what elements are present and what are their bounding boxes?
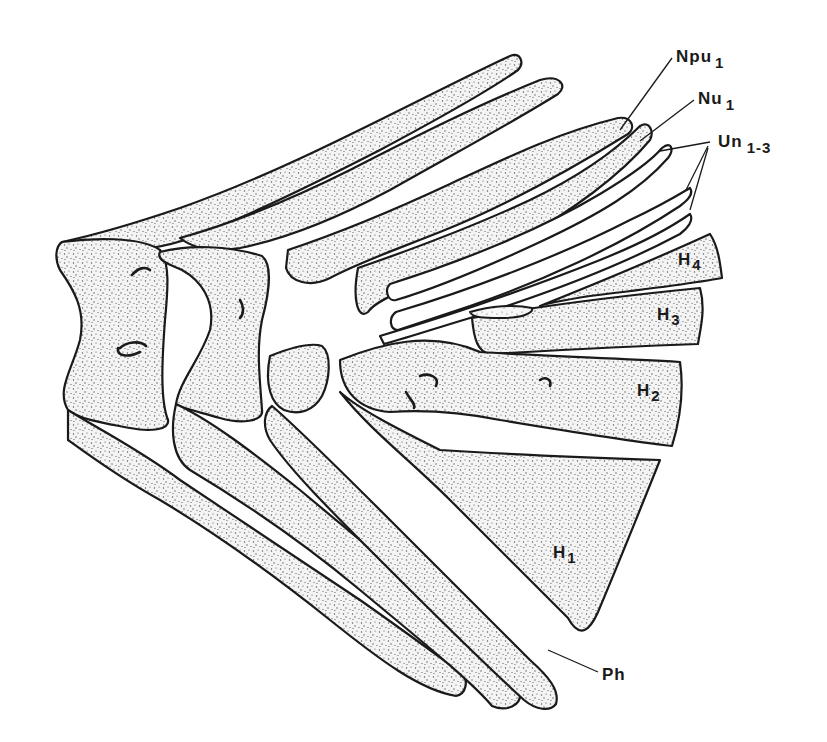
centrum-2 [159, 247, 269, 421]
label-un1-3: Un1-3 [718, 132, 771, 156]
caudal-skeleton-diagram: Npu1 Nu1 Un1-3 H4 H3 H2 H1 Ph [0, 0, 827, 742]
haemal-spines [68, 404, 557, 709]
hypural-base-ph [268, 345, 329, 413]
haemal-spine-2 [173, 404, 520, 708]
label-ph: Ph [602, 665, 626, 684]
label-nu1: Nu1 [698, 89, 735, 113]
centrum-1 [56, 239, 168, 430]
label-npu1: Npu1 [676, 47, 724, 71]
